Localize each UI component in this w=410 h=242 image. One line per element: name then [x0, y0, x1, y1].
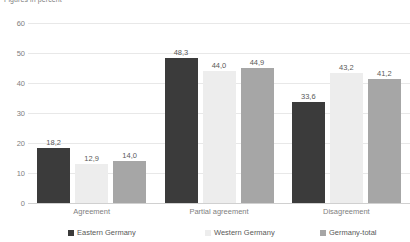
bar-value-label: 48,3: [174, 48, 189, 57]
y-axis-tick-label: 0: [3, 199, 25, 208]
legend-swatch-icon: [320, 230, 326, 236]
bar: 44,9: [241, 68, 274, 203]
legend-label: Eastern Germany: [77, 228, 136, 237]
legend-item[interactable]: Eastern Germany: [68, 228, 136, 237]
bar-value-label: 18,2: [46, 138, 61, 147]
bar-value-label: 43,2: [339, 63, 354, 72]
bar: 33,6: [292, 102, 325, 203]
legend-label: Germany-total: [329, 228, 377, 237]
bar: 14,0: [113, 161, 146, 203]
bar-value-label: 33,6: [301, 92, 316, 101]
bar-value-label: 44,9: [250, 58, 265, 67]
x-axis-category-label: Agreement: [73, 207, 110, 216]
bar-value-label: 44,0: [212, 61, 227, 70]
bar-value-label: 14,0: [122, 151, 137, 160]
bar: 44,0: [203, 71, 236, 203]
y-axis-tick-label: 60: [3, 19, 25, 28]
y-axis-tick-label: 30: [3, 109, 25, 118]
legend-item[interactable]: Germany-total: [320, 228, 377, 237]
y-axis-tick-label: 40: [3, 79, 25, 88]
bar: 41,2: [368, 79, 401, 203]
chart-legend: Eastern GermanyWestern GermanyGermany-to…: [0, 228, 410, 242]
x-axis-category-label: Disagreement: [323, 207, 370, 216]
y-axis-tick-label: 20: [3, 139, 25, 148]
legend-label: Western Germany: [214, 228, 275, 237]
gridline: [28, 23, 410, 24]
x-axis-category-label: Partial agreement: [189, 207, 248, 216]
axis-baseline: [28, 203, 410, 204]
axis-unit-caption: Figures in percent: [4, 0, 62, 3]
bar: 18,2: [37, 148, 70, 203]
y-axis-tick-label: 10: [3, 169, 25, 178]
legend-swatch-icon: [205, 230, 211, 236]
bar: 48,3: [165, 58, 198, 203]
bar: 12,9: [75, 164, 108, 203]
legend-item[interactable]: Western Germany: [205, 228, 275, 237]
bar-chart: Figures in percent 010203040506018,212,9…: [0, 0, 410, 242]
legend-swatch-icon: [68, 230, 74, 236]
y-axis-tick-label: 50: [3, 49, 25, 58]
bar-value-label: 41,2: [377, 69, 392, 78]
gridline: [28, 53, 410, 54]
bar: 43,2: [330, 73, 363, 203]
bar-value-label: 12,9: [84, 154, 99, 163]
plot-area: 010203040506018,212,914,048,344,044,933,…: [28, 23, 410, 203]
